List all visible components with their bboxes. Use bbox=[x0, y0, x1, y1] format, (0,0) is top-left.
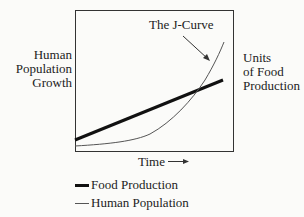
legend-label: Food Production bbox=[91, 177, 178, 193]
y-right-line-3: Production bbox=[243, 79, 300, 93]
legend-label: Human Population bbox=[91, 195, 189, 211]
legend-item-human-population: Human Population bbox=[75, 194, 189, 212]
legend: Food Production Human Population bbox=[75, 176, 189, 212]
y-axis-right-label: Units of Food Production bbox=[243, 51, 300, 93]
y-right-line-2: of Food bbox=[243, 65, 300, 79]
time-arrowhead-icon bbox=[183, 159, 189, 164]
y-axis-left-label: Human Population Growth bbox=[16, 48, 72, 90]
x-axis-label: Time bbox=[138, 155, 165, 169]
food-production-line bbox=[75, 80, 223, 140]
thick-line-swatch-icon bbox=[75, 184, 89, 187]
annotation-arrow bbox=[183, 36, 208, 59]
y-left-line-2: Population bbox=[16, 62, 72, 76]
y-left-line-1: Human bbox=[16, 48, 72, 62]
y-left-line-3: Growth bbox=[16, 76, 72, 90]
thin-line-swatch-icon bbox=[75, 203, 89, 204]
legend-item-food-production: Food Production bbox=[75, 176, 189, 194]
j-curve-annotation: The J-Curve bbox=[149, 18, 214, 32]
y-right-line-1: Units bbox=[243, 51, 300, 65]
